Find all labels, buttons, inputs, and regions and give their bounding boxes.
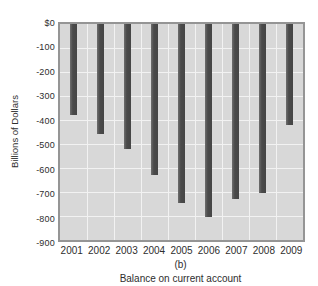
y-tick-label: -700: [7, 189, 55, 199]
y-tick-label: $0: [7, 18, 55, 28]
bar-2002: [97, 24, 104, 134]
plot-area: [58, 22, 305, 242]
bar-2004: [151, 24, 158, 175]
y-tick-label: -100: [7, 42, 55, 52]
gridline-vertical: [141, 24, 142, 240]
y-tick-label: -200: [7, 67, 55, 77]
bar-2008: [259, 24, 266, 193]
bar-2007: [232, 24, 239, 199]
bar-2001: [70, 24, 77, 115]
y-tick-label: -500: [7, 140, 55, 150]
y-tick-label: -400: [7, 116, 55, 126]
gridline-vertical: [276, 24, 277, 240]
bar-2005: [178, 24, 185, 203]
bar-2003: [124, 24, 131, 149]
gridline-horizontal: [60, 216, 303, 217]
gridline-vertical: [249, 24, 250, 240]
bar-2009: [286, 24, 293, 125]
y-tick-label: -800: [7, 214, 55, 224]
gridline-vertical: [168, 24, 169, 240]
gridline-vertical: [222, 24, 223, 240]
panel-label: (b): [58, 259, 303, 270]
gridline-vertical: [114, 24, 115, 240]
x-axis-title: Balance on current account: [38, 273, 318, 284]
bar-2006: [205, 24, 212, 217]
y-tick-label: -300: [7, 91, 55, 101]
gridline-vertical: [195, 24, 196, 240]
y-tick-label: -600: [7, 165, 55, 175]
y-tick-label: -900: [7, 238, 55, 248]
x-tick-label: 2009: [274, 245, 308, 256]
gridline-vertical: [87, 24, 88, 240]
current-account-bar-chart: Billions of Dollars $0-100-200-300-400-5…: [0, 0, 318, 286]
